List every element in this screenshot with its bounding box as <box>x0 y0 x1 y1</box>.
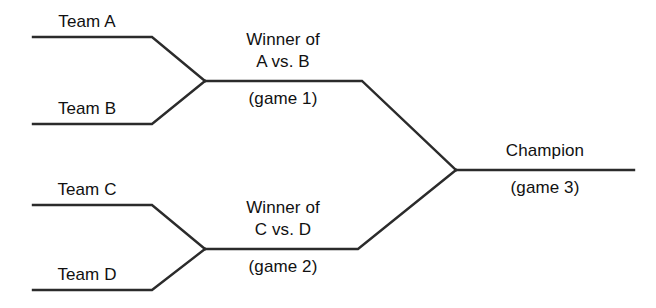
label-team-d: Team D <box>57 265 116 285</box>
label-game2-winner-line2: C vs. D <box>255 220 311 240</box>
label-game2: (game 2) <box>249 257 318 277</box>
label-champion: Champion <box>506 141 584 161</box>
team-a-line <box>33 37 205 81</box>
label-game1-winner-line2: A vs. B <box>256 52 310 72</box>
label-team-a: Team A <box>58 12 115 32</box>
label-game3: (game 3) <box>511 178 580 198</box>
game2-winner-line <box>205 170 456 249</box>
tournament-bracket-diagram: Team A Team B Team C Team D Winner of A … <box>0 0 656 308</box>
game1-winner-line <box>205 81 456 170</box>
label-game1: (game 1) <box>249 89 318 109</box>
team-c-line <box>33 205 205 249</box>
label-game1-winner-line1: Winner of <box>246 30 320 50</box>
label-team-b: Team B <box>58 99 116 119</box>
label-game2-winner-line1: Winner of <box>246 198 320 218</box>
label-team-c: Team C <box>57 180 116 200</box>
